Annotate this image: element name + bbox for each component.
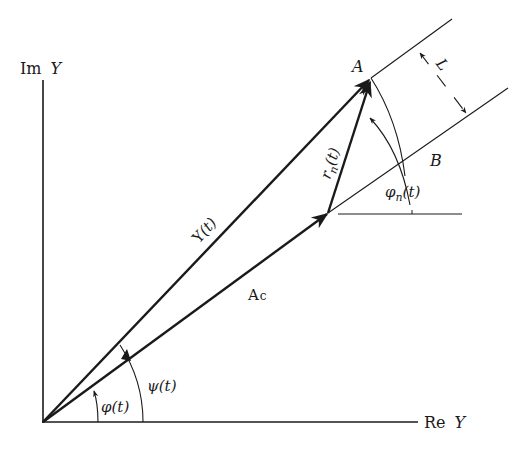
phasor-diagram: Im Y Re Y A B L Y(t) Ac rn(t) φn(t) φ(t)… xyxy=(0,0,527,457)
psi-arrow-icon xyxy=(121,349,131,361)
noise-label: rn(t) xyxy=(317,145,347,182)
carrier-vector-Ac xyxy=(43,214,327,422)
carrier-label: Ac xyxy=(247,286,267,304)
imag-axis-label: Im Y xyxy=(20,59,63,78)
phi-angle-arc xyxy=(94,391,98,422)
point-A-label: A xyxy=(350,57,364,76)
arc-A-to-B xyxy=(371,78,405,176)
point-B-label: B xyxy=(429,151,442,170)
L-label: L xyxy=(431,54,452,74)
psi-label: ψ(t) xyxy=(147,377,177,395)
phi-n-label: φn(t) xyxy=(385,183,420,204)
phi-label: φ(t) xyxy=(101,398,129,416)
resultant-vector-Y xyxy=(43,80,369,422)
real-axis-label: Re Y xyxy=(424,413,467,432)
